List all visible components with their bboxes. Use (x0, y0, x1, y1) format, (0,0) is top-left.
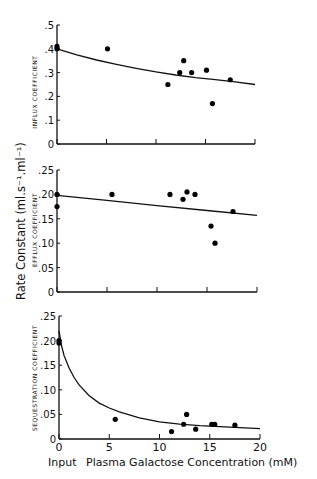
x-tick-label: 10 (153, 441, 167, 454)
y-tick-label: 0 (48, 287, 54, 298)
shared-y-axis-label: Rate Constant (ml.s⁻¹.ml⁻¹) (14, 142, 28, 300)
x-tick-label: 0 (56, 441, 63, 454)
data-point (105, 46, 110, 51)
efflux-panel: 0.05.10.15.20.25EFFLUX COEFFICIENT (31, 165, 257, 298)
panel-y-label: SEQUESTRATION COEFFICIENT (31, 325, 38, 431)
data-point (212, 241, 217, 246)
x-tick-label: 5 (106, 441, 113, 454)
data-point (230, 209, 235, 214)
data-point (177, 70, 182, 75)
data-point (169, 429, 174, 434)
data-point (193, 427, 198, 432)
data-point (54, 44, 59, 49)
data-point (232, 423, 237, 428)
data-point (204, 68, 209, 73)
x-axis-label: Plasma Galactose Concentration (mM) (86, 456, 297, 469)
y-tick-label: .5 (44, 20, 54, 31)
fit-curve (57, 49, 255, 85)
y-tick-label: .4 (44, 44, 54, 55)
data-point (180, 197, 185, 202)
x-tick-label: 15 (203, 441, 217, 454)
data-point (109, 192, 114, 197)
data-point (208, 224, 213, 229)
data-point (167, 192, 172, 197)
data-point (181, 422, 186, 427)
y-tick-label: .25 (40, 311, 56, 322)
data-point (189, 70, 194, 75)
x-tick-label: 20 (253, 441, 267, 454)
panel-y-label: EFFLUX COEFFICIENT (31, 193, 38, 267)
y-tick-label: .05 (40, 409, 56, 420)
data-point (54, 192, 59, 197)
figure: 0.1.2.3.4.5INFLUX COEFFICIENT 0.05.10.15… (0, 0, 317, 479)
data-point (184, 412, 189, 417)
fit-curve (57, 195, 257, 215)
influx-panel: 0.1.2.3.4.5INFLUX COEFFICIENT (31, 20, 255, 150)
data-point (56, 340, 61, 345)
data-point (192, 192, 197, 197)
y-tick-label: .1 (44, 115, 54, 126)
y-tick-label: .10 (40, 385, 56, 396)
data-point (210, 101, 215, 106)
y-tick-label: .3 (44, 68, 54, 79)
y-tick-label: .2 (44, 91, 54, 102)
fit-curve (59, 331, 260, 429)
data-point (184, 189, 189, 194)
data-point (212, 422, 217, 427)
data-point (113, 417, 118, 422)
y-tick-label: .15 (40, 360, 56, 371)
x-axis-input-label: Input (48, 456, 77, 469)
y-tick-label: .10 (38, 238, 54, 249)
y-tick-label: 0 (48, 139, 54, 150)
y-tick-label: .15 (38, 214, 54, 225)
data-point (165, 82, 170, 87)
data-point (181, 58, 186, 63)
y-tick-label: .25 (38, 165, 54, 176)
y-tick-label: .20 (38, 189, 54, 200)
data-point (54, 204, 59, 209)
y-tick-label: .05 (38, 263, 54, 274)
data-point (228, 77, 233, 82)
panel-y-label: INFLUX COEFFICIENT (31, 55, 38, 128)
sequestration-panel: 0.05.10.15.20.2505101520SEQUESTRATION CO… (31, 311, 267, 454)
y-tick-label: .20 (40, 336, 56, 347)
